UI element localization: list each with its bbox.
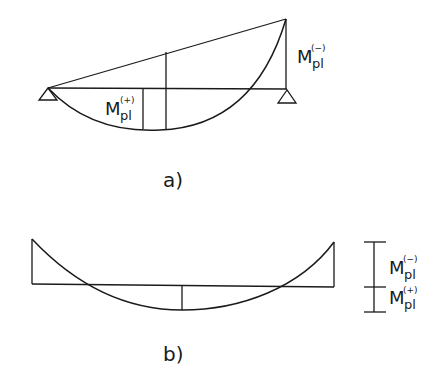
beam-baseline-b (32, 284, 334, 287)
diagram-a: M pl (−) M pl (+) a) (39, 19, 326, 192)
svg-text:(+): (+) (403, 285, 418, 295)
moment-curve-a (48, 19, 286, 130)
svg-text:pl: pl (120, 108, 132, 123)
svg-text:(−): (−) (403, 254, 418, 264)
closing-line-a (48, 19, 286, 88)
svg-text:pl: pl (312, 56, 324, 71)
label-mpl-positive-a: M pl (+) (105, 95, 135, 123)
dimension-bar-b (364, 242, 386, 312)
moment-diagrams-figure: M pl (−) M pl (+) a) M pl (−) M (0, 0, 438, 389)
svg-text:pl: pl (404, 297, 416, 312)
svg-text:(+): (+) (120, 95, 135, 105)
label-mpl-positive-b: M pl (+) (389, 285, 418, 312)
right-pin-support-icon (278, 90, 296, 103)
caption-a: a) (163, 168, 183, 192)
svg-text:pl: pl (404, 267, 416, 282)
caption-b: b) (163, 342, 184, 366)
label-mpl-negative-b: M pl (−) (389, 254, 418, 282)
label-mpl-negative-a: M pl (−) (297, 43, 326, 71)
svg-text:(−): (−) (311, 43, 326, 53)
moment-curve-b (32, 239, 334, 310)
svg-text:M: M (105, 98, 121, 119)
diagram-b: M pl (−) M pl (+) b) (32, 239, 418, 366)
